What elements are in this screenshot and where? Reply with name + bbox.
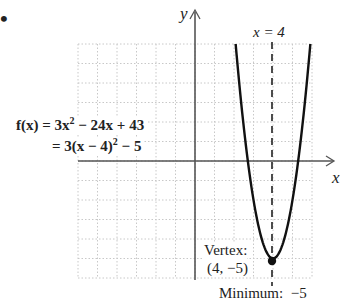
minimum-value: −5 (291, 285, 307, 301)
standard-form-equation: f(x) = 3x2 − 24x + 43 (16, 116, 146, 134)
axis-of-symmetry-label: x = 4 (253, 24, 285, 41)
vertex-form-post: − 5 (118, 138, 142, 154)
vertex-label-title: Vertex: (204, 242, 247, 259)
minimum-label-text: Minimum: (219, 285, 283, 301)
bullet: • (0, 8, 8, 30)
vertex-form-equation: = 3(x − 4)2 − 5 (52, 137, 143, 155)
vertex-label-coords: (4, −5) (207, 260, 248, 277)
vertex-point (268, 257, 276, 265)
standard-form-rest: − 24x + 43 (75, 117, 145, 133)
y-axis-label: y (180, 4, 188, 24)
vertex-form-pre: = 3(x − 4) (52, 138, 113, 154)
standard-form-lhs: f(x) = 3x (16, 117, 70, 133)
minimum-label: Minimum: −5 (219, 285, 307, 302)
x-axis-label: x (332, 168, 340, 188)
